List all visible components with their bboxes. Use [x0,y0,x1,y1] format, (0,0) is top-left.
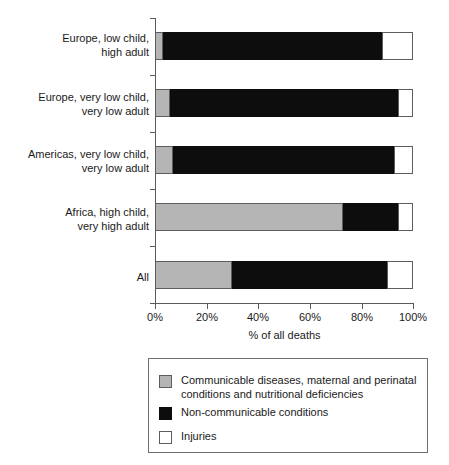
bar-segment-injuries [398,203,413,231]
bar-row [155,146,413,174]
y-category-label-africa: Africa, high child, very high adult [0,205,149,233]
legend-label-non-communicable: Non-communicable conditions [181,405,429,419]
bar-segment-non-communicable [173,146,394,174]
x-axis-tick-label-20: 20% [187,311,227,324]
y-axis-tick [150,246,155,247]
legend-label-communicable: Communicable diseases, maternal and peri… [181,373,429,401]
y-category-label-europe-very-low-child: Europe, very low child, very low adult [0,90,149,118]
stacked-bar-chart-figure: Europe, low child, high adult Europe, ve… [0,0,449,465]
x-axis-tick-label-0: 0% [135,311,175,324]
bar-segment-communicable [155,261,232,289]
plot-area [155,18,413,303]
bar-segment-injuries [398,89,413,117]
y-category-label-europe-low-child: Europe, low child, high adult [0,31,149,59]
bar-segment-non-communicable [163,32,382,60]
legend: Communicable diseases, maternal and peri… [148,358,428,453]
bar-row [155,89,413,117]
bar-row [155,203,413,231]
x-axis-tick [413,304,414,309]
legend-swatch-icon-non-communicable [159,407,172,420]
bar-row [155,261,413,289]
x-axis-tick-label-40: 40% [238,311,278,324]
bar-segment-injuries [382,32,413,60]
bar-segment-communicable [155,203,343,231]
y-axis-tick [150,189,155,190]
bar-segment-communicable [155,146,173,174]
x-axis-tick [310,304,311,309]
bar-segment-non-communicable [232,261,387,289]
bar-segment-injuries [387,261,413,289]
legend-swatch-icon-communicable [159,375,172,388]
legend-swatch-icon-injuries [159,431,172,444]
bar-segment-injuries [394,146,413,174]
y-axis-tick [150,75,155,76]
x-axis-spine [155,303,414,304]
x-axis-tick [155,304,156,309]
x-axis-title: % of all deaths [155,329,414,342]
y-axis-tick [150,132,155,133]
x-axis-tick [258,304,259,309]
bar-row [155,32,413,60]
x-axis-tick [207,304,208,309]
y-category-label-all: All [0,270,149,284]
x-axis-tick [362,304,363,309]
x-axis-tick-label-100: 100% [391,311,435,324]
x-axis-tick-label-60: 60% [290,311,330,324]
legend-label-injuries: Injuries [181,429,429,443]
bar-segment-non-communicable [170,89,397,117]
bar-segment-communicable [155,32,163,60]
x-axis-tick-label-80: 80% [342,311,382,324]
bar-segment-communicable [155,89,170,117]
y-category-label-americas: Americas, very low child, very low adult [0,147,149,175]
y-axis-tick [150,18,155,19]
bar-segment-non-communicable [343,203,397,231]
